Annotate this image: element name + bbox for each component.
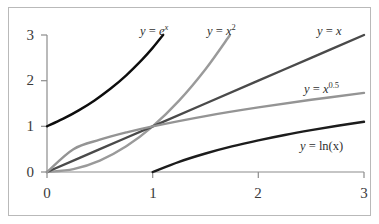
y-tick-label-2: 2 (12, 73, 34, 88)
series-label-exp-sup: x (164, 22, 168, 32)
series-curve-0 (47, 35, 163, 127)
x-tick-label-3: 3 (353, 186, 375, 201)
series-label-linear-base: x (336, 24, 342, 38)
x-tick-label-1: 1 (142, 186, 164, 201)
y-tick-label-3: 3 (12, 28, 34, 43)
figure-container: 3 2 1 0 0 1 2 3 y = ex y = x2 y = x y = … (0, 0, 379, 224)
x-tick-label-0: 0 (36, 186, 58, 201)
series-label-linear-eq: = (323, 24, 336, 38)
series-label-log-eq: = (306, 139, 319, 153)
series-label-square-sup: 2 (231, 22, 235, 32)
y-tick-label-1: 1 (12, 119, 34, 134)
series-label-square: y = x2 (207, 25, 236, 38)
series-label-log: y = ln(x) (300, 140, 343, 153)
x-tick-label-2: 2 (247, 186, 269, 201)
series-label-log-base: ln(x) (319, 139, 343, 153)
series-label-linear: y = x (317, 25, 341, 38)
series-label-sqrt-eq: = (310, 82, 323, 96)
series-label-sqrt-sup: 0.5 (328, 80, 339, 90)
series-label-square-eq: = (213, 24, 226, 38)
series-label-exp-eq: = (146, 24, 159, 38)
series-label-exp: y = ex (140, 25, 168, 38)
series-label-sqrt: y = x0.5 (304, 83, 339, 96)
y-tick-label-0: 0 (12, 165, 34, 180)
